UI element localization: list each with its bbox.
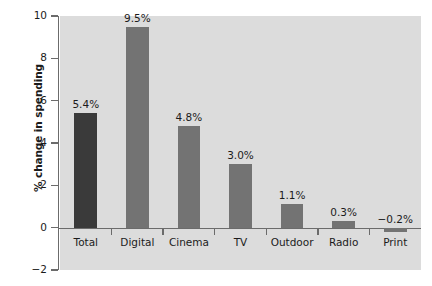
y-axis-tick-label: 2	[7, 178, 47, 190]
x-axis-tick	[214, 229, 215, 235]
x-axis-tick	[111, 229, 112, 235]
y-axis-tick-label: 0	[7, 221, 47, 233]
bar-tv[interactable]	[229, 164, 252, 228]
y-axis-tick-label: 10	[7, 9, 47, 21]
bar-chart: % change in spending 1086420−2 5.4%9.5%4…	[0, 0, 432, 286]
y-axis-tick-label: 6	[7, 94, 47, 106]
bar-outdoor[interactable]	[281, 204, 304, 227]
x-axis-category-label-print: Print	[355, 236, 432, 248]
bar-cinema[interactable]	[178, 126, 201, 228]
bar-value-label-outdoor: 1.1%	[252, 189, 332, 201]
bar-value-label-digital: 9.5%	[97, 12, 177, 24]
bar-value-label-tv: 3.0%	[201, 149, 281, 161]
bar-print[interactable]	[384, 228, 407, 232]
y-axis-tick	[51, 58, 58, 59]
bar-value-label-total: 5.4%	[46, 98, 126, 110]
y-axis-tick	[51, 142, 58, 143]
plot-area	[60, 16, 421, 270]
bar-total[interactable]	[74, 113, 97, 227]
y-axis-tick	[51, 269, 58, 270]
x-axis-tick	[162, 229, 163, 235]
bar-radio[interactable]	[332, 221, 355, 227]
x-axis-tick	[369, 229, 370, 235]
y-axis-tick	[51, 15, 58, 16]
y-axis-tick-label: −2	[7, 263, 47, 275]
x-axis-tick	[266, 229, 267, 235]
y-axis-line	[58, 16, 59, 270]
bar-digital[interactable]	[126, 27, 149, 228]
y-axis-tick	[51, 185, 58, 186]
y-axis-tick-label: 8	[7, 51, 47, 63]
bar-value-label-print: −0.2%	[355, 213, 432, 225]
y-axis-tick	[51, 227, 58, 228]
y-axis-tick-label: 4	[7, 136, 47, 148]
x-axis-zero-line	[58, 228, 421, 229]
x-axis-tick	[317, 229, 318, 235]
bar-value-label-cinema: 4.8%	[149, 111, 229, 123]
